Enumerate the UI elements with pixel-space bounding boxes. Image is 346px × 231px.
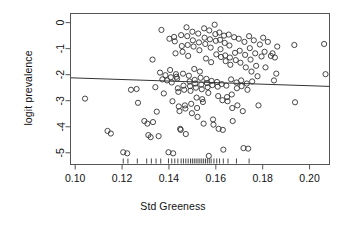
data-point [198, 75, 203, 80]
x-tick-label: 0.20 [299, 172, 320, 184]
data-point [230, 118, 235, 123]
data-point [209, 60, 214, 65]
data-point [271, 78, 276, 83]
data-point [168, 67, 173, 72]
data-point [227, 55, 232, 60]
data-point [227, 43, 232, 48]
data-point [186, 73, 191, 78]
data-point [208, 45, 213, 50]
y-tick-label: 0 [55, 20, 67, 26]
data-point [247, 34, 252, 39]
data-point [226, 32, 231, 37]
data-point [161, 91, 166, 96]
data-point [255, 74, 260, 79]
data-point [274, 71, 279, 76]
rug-marks [123, 159, 249, 164]
data-point [176, 89, 181, 94]
data-point [248, 57, 253, 62]
data-point [239, 84, 244, 89]
y-tick-label: -1 [55, 44, 67, 53]
data-point [171, 151, 176, 156]
data-point [179, 43, 184, 48]
y-axis-tick-labels: 0-1-2-3-4-5 [55, 20, 67, 158]
data-point [189, 111, 194, 116]
data-point [206, 90, 211, 95]
data-point [228, 77, 233, 82]
x-tick-label: 0.18 [252, 172, 273, 184]
data-point [292, 42, 297, 47]
data-point [189, 101, 194, 106]
y-axis-ticks [66, 23, 71, 153]
data-point [185, 42, 190, 47]
y-tick-label: -3 [55, 96, 67, 105]
data-point [212, 22, 217, 27]
data-point [256, 103, 261, 108]
data-point [250, 79, 255, 84]
data-point-markers [82, 22, 328, 158]
data-point [242, 39, 247, 44]
data-point [168, 75, 173, 80]
scatter-plot-figure: 0.100.120.140.160.180.20 0-1-2-3-4-5 Std… [0, 0, 346, 231]
data-point [253, 51, 258, 56]
data-point [157, 70, 162, 75]
data-point [210, 117, 215, 122]
data-point [183, 131, 188, 136]
data-point [154, 109, 159, 114]
data-point [190, 38, 195, 43]
data-point [229, 92, 234, 97]
data-point [237, 48, 242, 53]
data-point [156, 134, 161, 139]
data-point [135, 100, 140, 105]
x-axis-tick-labels: 0.100.120.140.160.180.20 [65, 172, 320, 184]
data-point [245, 87, 250, 92]
data-point [218, 47, 223, 52]
plot-border [71, 14, 330, 165]
data-point [206, 153, 211, 158]
y-tick-label: -4 [55, 122, 67, 131]
regression-line [71, 78, 330, 87]
data-point [128, 87, 133, 92]
data-point [202, 35, 207, 40]
x-axis-ticks [75, 165, 309, 170]
data-point [220, 98, 225, 103]
data-point [197, 48, 202, 53]
data-point [185, 34, 190, 39]
data-point [263, 65, 268, 70]
data-point [243, 65, 248, 70]
data-point [153, 85, 158, 90]
data-point [251, 38, 256, 43]
y-axis-title: logit prevalence [22, 8, 34, 168]
x-tick-label: 0.16 [206, 172, 227, 184]
data-point [228, 62, 233, 67]
data-point [235, 103, 240, 108]
data-point [201, 121, 206, 126]
data-point [239, 78, 244, 83]
data-point [323, 72, 328, 77]
data-point [203, 41, 208, 46]
data-point [259, 54, 264, 59]
data-point [203, 56, 208, 61]
data-point [191, 44, 196, 49]
data-point [159, 27, 164, 32]
data-point [173, 51, 178, 56]
data-point [262, 49, 267, 54]
data-point [190, 29, 195, 34]
data-point [322, 41, 327, 46]
data-point [230, 105, 235, 110]
plot-canvas: 0.100.120.140.160.180.20 0-1-2-3-4-5 [0, 0, 346, 231]
data-point [196, 31, 201, 36]
data-point [179, 33, 184, 38]
data-point [197, 69, 202, 74]
y-tick-label: -2 [55, 70, 67, 79]
data-point [257, 42, 262, 47]
data-point [194, 95, 199, 100]
data-point [247, 46, 252, 51]
data-point [224, 83, 229, 88]
x-tick-label: 0.14 [159, 172, 180, 184]
data-point [184, 25, 189, 30]
plot-frame [71, 14, 330, 165]
data-point [180, 49, 185, 54]
data-point [207, 37, 212, 42]
data-point [186, 53, 191, 58]
data-point [195, 114, 200, 119]
